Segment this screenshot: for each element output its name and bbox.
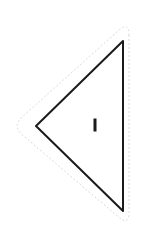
vector-drawing-canvas xyxy=(0,0,153,234)
center-tick-icon xyxy=(94,119,97,132)
shape-canvas-root xyxy=(0,0,153,234)
canvas-background xyxy=(0,0,153,234)
